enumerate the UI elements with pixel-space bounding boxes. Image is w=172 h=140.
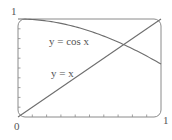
cos-curve [18, 19, 161, 64]
identity-line-label: y = x [51, 67, 74, 79]
cos-x-vs-x-chart: 1 0 1 y = cos x y = x [0, 0, 172, 140]
x-max-label: 1 [163, 114, 169, 126]
y-max-label: 1 [11, 5, 17, 17]
identity-line [18, 19, 161, 117]
origin-label: 0 [14, 120, 20, 132]
cos-curve-label: y = cos x [49, 35, 90, 47]
